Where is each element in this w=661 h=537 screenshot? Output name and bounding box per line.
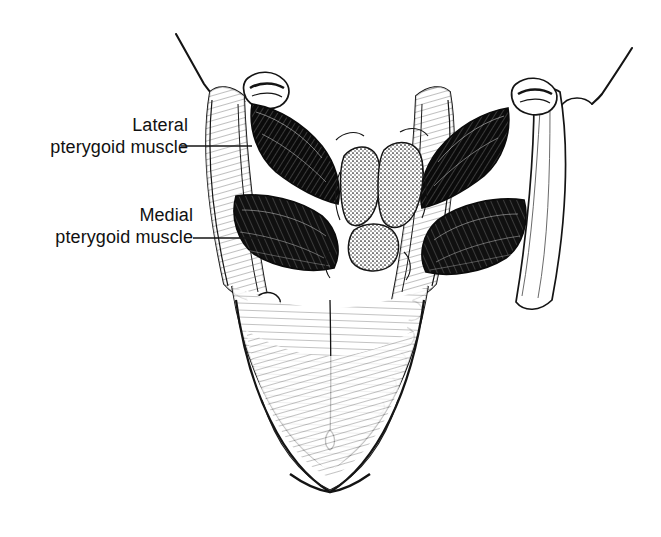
- left-condyle: [244, 72, 289, 109]
- lateral-label-line-2: pterygoid muscle: [0, 136, 188, 158]
- right-condyle: [512, 78, 557, 115]
- mandible-illustration: [0, 0, 661, 537]
- medial-pterygoid-muscle-label: Medial pterygoid muscle: [0, 204, 193, 248]
- lateral-label-line-1: Lateral: [0, 114, 188, 136]
- medial-label-line-2: pterygoid muscle: [0, 226, 193, 248]
- anatomical-figure: Lateral pterygoid muscle Medial pterygoi…: [0, 0, 661, 537]
- lateral-pterygoid-muscle-label: Lateral pterygoid muscle: [0, 114, 188, 158]
- medial-label-line-1: Medial: [0, 204, 193, 226]
